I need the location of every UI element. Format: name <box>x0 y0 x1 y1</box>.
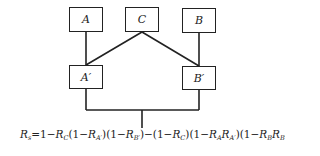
block-c-label: C <box>138 13 146 26</box>
block-b-prime-label: B′ <box>194 72 205 85</box>
reliability-equation: Rs=1−RC(1−RA′)(1−RB′)−(1−RC)(1−RARA′)(1−… <box>20 128 285 142</box>
block-a: A <box>69 7 103 32</box>
block-a-prime-label: A′ <box>81 71 91 84</box>
block-b-prime: B′ <box>182 66 216 90</box>
block-c: C <box>125 7 159 32</box>
block-a-label: A <box>82 13 90 26</box>
block-b: B <box>182 8 216 33</box>
block-b-label: B <box>195 14 203 27</box>
block-a-prime: A′ <box>69 65 103 89</box>
